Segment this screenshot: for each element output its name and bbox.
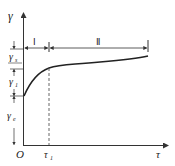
- gamma-s-sub: s: [15, 57, 18, 63]
- region-1-label: Ⅰ: [33, 37, 36, 47]
- y-axis-label: γ: [8, 9, 13, 23]
- gamma-1-sub: 1: [15, 82, 18, 88]
- gamma-s-label: γ: [9, 51, 14, 62]
- creep-diagram: γ τ O τ 1 Ⅰ Ⅱ γ s γ 1 γ e: [0, 0, 175, 166]
- gamma-1-label: γ: [9, 76, 14, 87]
- tau1-sub: 1: [50, 155, 53, 161]
- tau1-label: τ: [44, 149, 48, 160]
- region-2-label: Ⅱ: [96, 37, 100, 47]
- gamma-e-label: γ: [7, 110, 12, 121]
- origin-label: O: [16, 148, 24, 160]
- x-axis-label: τ: [156, 148, 161, 160]
- strain-curve: [24, 56, 148, 96]
- gamma-e-sub: e: [13, 116, 16, 122]
